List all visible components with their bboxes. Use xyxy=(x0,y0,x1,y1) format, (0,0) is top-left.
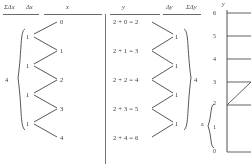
graph-y-axis-label: y xyxy=(222,1,225,7)
graph-annotation-label: a xyxy=(201,121,204,127)
graph-ytick-3: 3 xyxy=(213,79,216,85)
graph-annotation-brace xyxy=(207,103,215,149)
graph-ytick-6: 6 xyxy=(213,10,216,16)
graph-ytick-4: 4 xyxy=(213,56,216,62)
graph-ytick-5: 5 xyxy=(213,33,216,39)
figure-canvas: ΣΔx Δx x y Δy ΣΔy 0 1 2 3 4 1 1 1 1 4 2 … xyxy=(0,0,251,164)
